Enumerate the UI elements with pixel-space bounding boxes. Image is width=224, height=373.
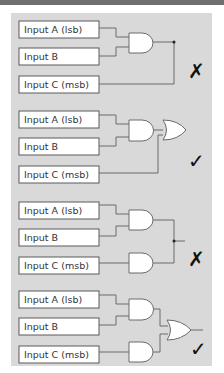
check-icon: ✓ xyxy=(190,337,207,361)
and-gate-icon xyxy=(129,33,153,53)
cross-icon: ✗ xyxy=(188,247,205,271)
and-gate-icon xyxy=(129,299,154,320)
wire-and2-to-or xyxy=(153,334,168,352)
input-label-b: Input B xyxy=(24,141,58,152)
circuit-3: Input A (lsb) Input B Input C (msb) ✗ xyxy=(19,202,205,274)
logic-circuits-diagram: Input A (lsb) Input B Input C (msb) ✗ In… xyxy=(0,0,224,373)
junction-dot xyxy=(173,41,176,44)
wire-a xyxy=(99,28,129,37)
wire-a xyxy=(99,205,129,214)
and-gate-icon xyxy=(129,342,153,362)
and-gate-icon xyxy=(129,120,154,141)
circuit-1: Input A (lsb) Input B Input C (msb) ✗ xyxy=(19,21,205,93)
junction-dot xyxy=(173,240,176,243)
input-label-a: Input A (lsb) xyxy=(24,205,82,216)
input-label-c: Input C (msb) xyxy=(24,349,89,360)
input-label-b: Input B xyxy=(24,321,58,332)
wire-a xyxy=(99,115,129,124)
or-gate-icon xyxy=(163,120,186,140)
and-gate-icon xyxy=(129,210,153,230)
input-label-c: Input C (msb) xyxy=(24,79,89,90)
input-label-c: Input C (msb) xyxy=(24,169,89,180)
wire-and1-to-or xyxy=(153,309,168,326)
input-label-a: Input A (lsb) xyxy=(24,24,82,35)
input-label-c: Input C (msb) xyxy=(24,260,89,271)
and-gate-icon xyxy=(129,253,153,273)
input-label-a: Input A (lsb) xyxy=(24,294,82,305)
check-icon: ✓ xyxy=(188,149,205,173)
input-label-b: Input B xyxy=(24,232,58,243)
input-label-a: Input A (lsb) xyxy=(24,114,82,125)
input-label-b: Input B xyxy=(24,51,58,62)
wire-b xyxy=(99,226,129,236)
or-gate-icon xyxy=(167,320,191,340)
wire-output-junction xyxy=(153,220,174,263)
wire-b xyxy=(99,137,129,146)
wire-b xyxy=(99,316,129,325)
wire-a xyxy=(99,295,129,304)
circuit-4: Input A (lsb) Input B Input C (msb) ✓ xyxy=(19,291,207,363)
circuit-2: Input A (lsb) Input B Input C (msb) ✓ xyxy=(19,111,205,183)
cross-icon: ✗ xyxy=(188,59,205,83)
wire-b xyxy=(99,47,129,56)
